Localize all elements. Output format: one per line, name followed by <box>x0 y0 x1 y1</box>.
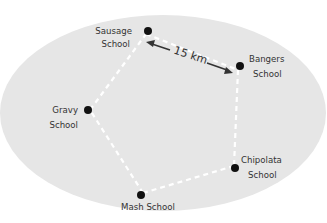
school-dot <box>236 62 244 70</box>
school-label: Chipolata <box>241 155 282 165</box>
school-label: Sausage <box>95 26 132 36</box>
school-dot <box>137 191 145 199</box>
school-dot <box>231 164 239 172</box>
school-label: Mash School <box>121 202 175 212</box>
school-label: School <box>49 120 78 130</box>
school-dot <box>144 27 152 35</box>
school-dot <box>84 106 92 114</box>
school-route-diagram: 15 km Sausage School Bangers School Chip… <box>0 0 327 223</box>
school-label: Gravy <box>52 105 78 115</box>
school-label: School <box>248 170 277 180</box>
school-label: School <box>101 39 130 49</box>
school-label: School <box>253 69 282 79</box>
school-label: Bangers <box>249 54 285 64</box>
region-ellipse <box>0 15 326 211</box>
